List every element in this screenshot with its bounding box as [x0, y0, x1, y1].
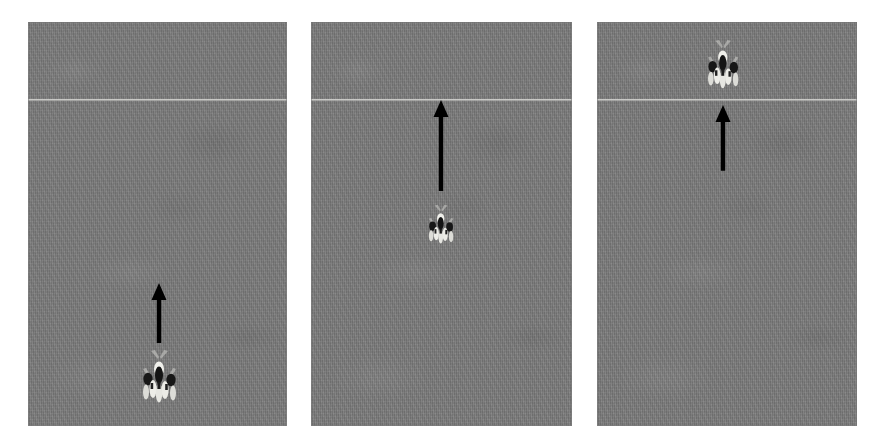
pedestrian-group — [697, 39, 749, 96]
motion-arrow — [713, 105, 733, 171]
pedestrian-group — [420, 204, 461, 250]
motion-arrow — [149, 283, 169, 344]
crossing-line — [597, 99, 857, 101]
motion-arrow — [431, 100, 451, 191]
panel-frame-3[interactable] — [597, 22, 857, 426]
panel-frame-1[interactable] — [28, 22, 287, 426]
pedestrian-group — [131, 349, 187, 411]
crossing-line — [28, 99, 287, 101]
panel-frame-2[interactable] — [311, 22, 572, 426]
figure-panel-sequence — [0, 0, 887, 447]
